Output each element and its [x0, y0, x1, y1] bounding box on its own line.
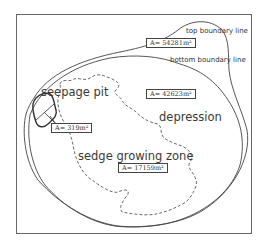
depression-area-box: A= 42623m²: [146, 89, 196, 99]
seepage-pit-area-box: A= 319m²: [51, 123, 92, 133]
seepage-pit-label: seepage pit: [41, 87, 109, 99]
wetland-area-diagram: top boundary line A= 54281m² bottom boun…: [0, 0, 264, 244]
sedge-zone-label: sedge growing zone: [78, 151, 194, 163]
top-boundary-label: top boundary line: [186, 28, 248, 35]
depression-label: depression: [159, 112, 222, 124]
bottom-boundary-label: bottom boundary line: [170, 57, 246, 64]
sedge-zone-area-box: A= 17159m²: [118, 163, 168, 173]
diagram-canvas: [0, 0, 264, 244]
top-area-box: A= 54281m²: [146, 38, 196, 48]
